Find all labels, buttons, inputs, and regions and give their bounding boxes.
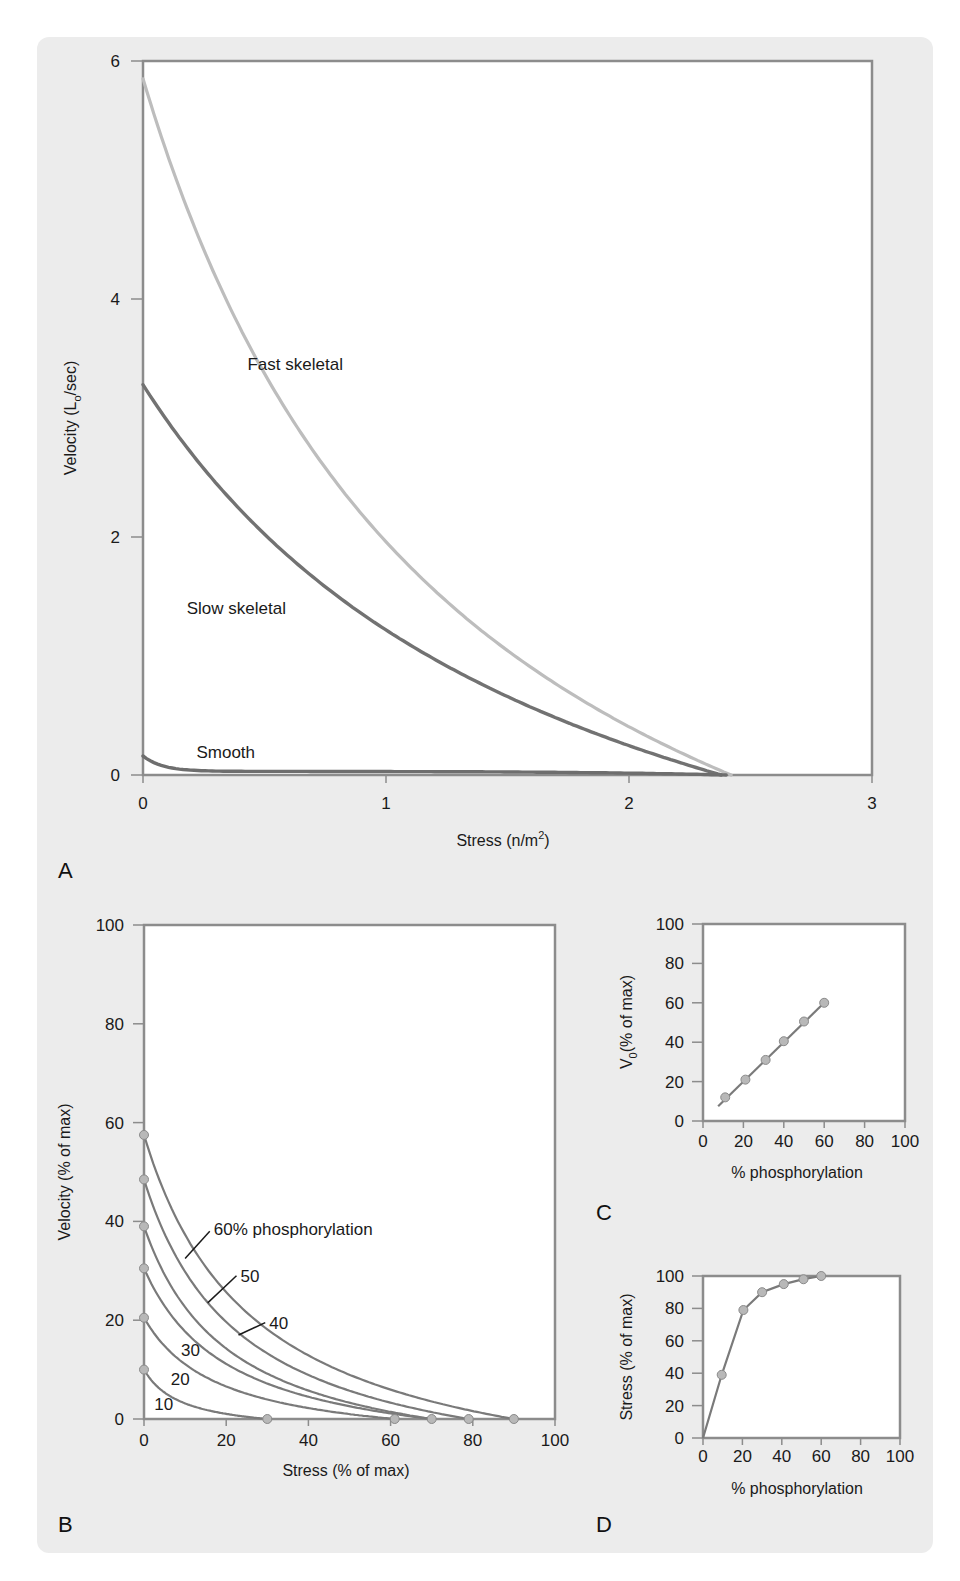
y-axis-title: Stress (% of max) [618,1293,635,1420]
data-point-marker [509,1415,518,1424]
x-axis-title: Stress (% of max) [282,1462,409,1479]
x-tick-label: 3 [867,794,876,813]
data-point-marker [820,998,829,1007]
y-tick-label: 4 [111,290,120,309]
panel-letter: C [596,1200,612,1225]
x-tick-label: 60 [815,1132,834,1151]
x-tick-label: 0 [698,1447,707,1466]
y-axis-title-text: V [618,1058,635,1069]
y-tick-label: 40 [665,1033,684,1052]
curve-label: Slow skeletal [187,599,286,618]
y-tick-label: 40 [105,1212,124,1231]
x-axis-title-text: % phosphorylation [731,1164,863,1181]
x-tick-label: 100 [541,1431,569,1450]
data-point-marker [779,1037,788,1046]
data-point-marker [140,1222,149,1231]
x-tick-label: 20 [734,1132,753,1151]
x-tick-label: 60 [381,1431,400,1450]
panel-b-phosphorylation-curves-chart: 020406080100020406080100Stress (% of max… [56,916,569,1537]
panel-letter: D [596,1512,612,1537]
x-tick-label: 80 [463,1431,482,1450]
x-tick-label: 20 [217,1431,236,1450]
x-axis-title: % phosphorylation [731,1480,863,1497]
y-axis-title-end: (% of max) [618,975,635,1052]
y-tick-label: 80 [105,1015,124,1034]
y-axis-title-end: /sec) [62,361,79,396]
x-tick-label: 40 [299,1431,318,1450]
y-axis-title-text: Stress (% of max) [618,1293,635,1420]
curve-label: 30 [181,1341,200,1360]
data-point-marker [140,1365,149,1374]
figure-canvas: 01230246Stress (n/m2)Velocity (Lo/sec)AF… [0,0,960,1581]
y-axis-title-text: Velocity (% of max) [56,1104,73,1241]
curve-label: 40 [269,1314,288,1333]
x-tick-label: 0 [138,794,147,813]
y-tick-label: 0 [675,1112,684,1131]
plot-area [703,1276,900,1438]
y-tick-label: 60 [665,994,684,1013]
data-point-marker [140,1175,149,1184]
data-point-marker [741,1075,750,1084]
y-tick-label: 100 [656,1267,684,1286]
y-tick-label: 20 [665,1397,684,1416]
curve-label: 50 [241,1267,260,1286]
x-tick-label: 100 [891,1132,919,1151]
y-tick-label: 60 [665,1332,684,1351]
curve-label: 10 [154,1395,173,1414]
y-tick-label: 0 [115,1410,124,1429]
x-tick-label: 80 [855,1132,874,1151]
y-axis-title-text: Velocity (L [62,401,79,475]
data-point-marker [817,1272,826,1281]
data-point-marker [464,1415,473,1424]
y-tick-label: 100 [656,915,684,934]
x-tick-label: 60 [812,1447,831,1466]
x-tick-label: 2 [624,794,633,813]
x-axis-title-text: Stress (% of max) [282,1462,409,1479]
data-point-marker [758,1288,767,1297]
y-tick-label: 60 [105,1114,124,1133]
y-tick-label: 80 [665,1299,684,1318]
plot-area [143,61,872,775]
data-point-marker [140,1264,149,1273]
data-point-marker [800,1017,809,1026]
data-point-marker [721,1093,730,1102]
panel-a-velocity-vs-stress-chart: 01230246Stress (n/m2)Velocity (Lo/sec)AF… [58,52,877,883]
y-tick-label: 20 [665,1073,684,1092]
data-point-marker [140,1313,149,1322]
y-tick-label: 6 [111,52,120,71]
x-tick-label: 1 [381,794,390,813]
y-tick-label: 0 [675,1429,684,1448]
x-axis-title: Stress (n/m2) [456,829,549,849]
data-point-marker [263,1415,272,1424]
data-point-marker [739,1306,748,1315]
y-tick-label: 2 [111,528,120,547]
x-tick-label: 80 [851,1447,870,1466]
curve-label: 20 [171,1370,190,1389]
y-axis-title: Velocity (Lo/sec) [62,361,83,476]
curve-label: 60% phosphorylation [214,1220,373,1239]
data-point-marker [427,1415,436,1424]
data-point-marker [717,1370,726,1379]
x-tick-label: 0 [139,1431,148,1450]
panel-letter: B [58,1512,73,1537]
y-axis-title: Velocity (% of max) [56,1104,73,1241]
data-point-marker [779,1280,788,1289]
x-axis-title-text: Stress (n/m [456,832,538,849]
y-tick-label: 40 [665,1364,684,1383]
panel-letter: A [58,858,73,883]
y-tick-label: 0 [111,766,120,785]
data-point-marker [140,1130,149,1139]
x-axis-title-text: % phosphorylation [731,1480,863,1497]
data-point-marker [390,1415,399,1424]
data-point-marker [761,1055,770,1064]
x-tick-label: 100 [886,1447,914,1466]
data-point-marker [799,1275,808,1284]
x-axis-title: % phosphorylation [731,1164,863,1181]
y-tick-label: 100 [96,916,124,935]
x-tick-label: 40 [774,1132,793,1151]
y-axis-title: V0(% of max) [618,975,639,1069]
y-tick-label: 20 [105,1311,124,1330]
y-tick-label: 80 [665,954,684,973]
panel-d-stress-vs-phosphorylation-chart: 020406080100020406080100% phosphorylatio… [596,1267,914,1537]
panel-c-v0-vs-phosphorylation-chart: 020406080100020406080100% phosphorylatio… [596,915,919,1225]
